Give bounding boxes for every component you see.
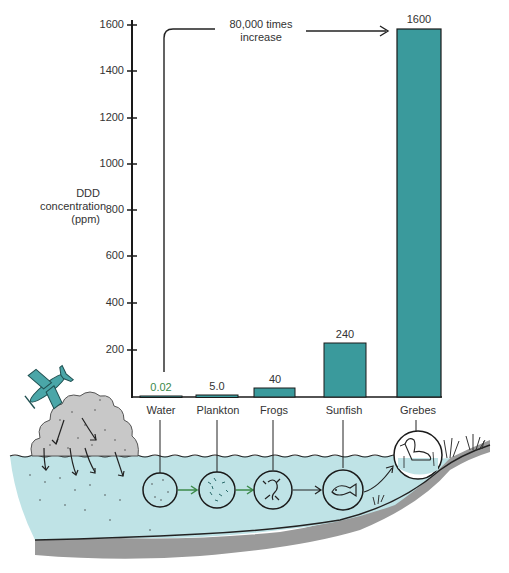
bar-water — [140, 396, 182, 398]
y-tick-1600: 1600 — [84, 18, 124, 30]
value-label-frogs: 40 — [250, 373, 300, 385]
bar-sunfish — [324, 343, 366, 397]
value-label-grebes: 1600 — [394, 13, 444, 25]
increase-arrow — [164, 29, 215, 372]
y-tick-400: 400 — [84, 296, 124, 308]
annotation-line1: 80,000 times — [220, 18, 302, 31]
y-tick-600: 600 — [84, 249, 124, 261]
bars — [140, 29, 441, 398]
water-circle-icon — [143, 473, 177, 507]
value-label-water: 0.02 — [136, 381, 186, 393]
value-label-sunfish: 240 — [320, 328, 370, 340]
category-label-plankton: Plankton — [188, 404, 248, 416]
value-label-plankton: 5.0 — [192, 380, 242, 392]
category-label-water: Water — [131, 404, 191, 416]
y-tick-1000: 1000 — [84, 157, 124, 169]
y-axis-label-line3: (ppm) — [40, 213, 100, 226]
category-label-grebes: Grebes — [388, 404, 448, 416]
y-tick-200: 200 — [84, 343, 124, 355]
chart-illustration — [0, 0, 509, 573]
frog-circle-icon — [254, 471, 292, 509]
y-axis-label-line2: concentration — [40, 200, 100, 213]
plankton-circle-icon — [199, 472, 235, 508]
bar-plankton — [196, 395, 238, 398]
annotation-line2: increase — [220, 31, 302, 44]
category-label-frogs: Frogs — [244, 404, 304, 416]
pesticide-cloud-icon — [31, 392, 138, 456]
category-label-sunfish: Sunfish — [314, 404, 374, 416]
y-tick-1200: 1200 — [84, 111, 124, 123]
bar-frogs — [254, 388, 295, 397]
y-tick-1400: 1400 — [84, 64, 124, 76]
y-axis-label-line1: DDD — [40, 187, 100, 200]
grebe-circle-icon — [394, 431, 442, 479]
y-axis-label: DDD concentration (ppm) — [40, 187, 100, 226]
bar-grebes — [397, 29, 441, 397]
annotation-label: 80,000 times increase — [216, 18, 306, 44]
sunfish-circle-icon — [323, 470, 363, 510]
